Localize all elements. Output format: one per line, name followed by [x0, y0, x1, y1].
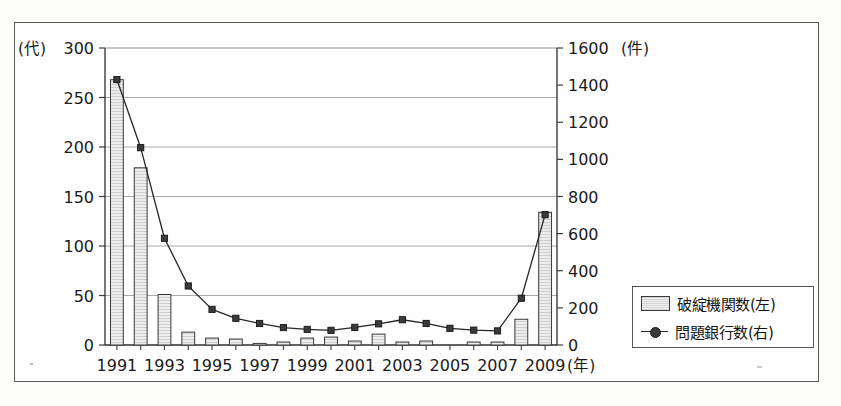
data-marker [542, 212, 548, 218]
bar [396, 342, 409, 345]
legend-label-problem-banks: 問題銀行数(右) [675, 321, 774, 342]
x-tick-label: 1991 [97, 356, 138, 375]
data-marker [494, 328, 500, 334]
data-marker [161, 235, 167, 241]
chart-legend: 破綻機関数(左) 問題銀行数(右) [632, 286, 814, 348]
x-tick-label: 2001 [334, 356, 375, 375]
x-tick-label: 1997 [239, 356, 280, 375]
y-tick-label-right: 1000 [568, 150, 609, 169]
x-tick-label: 1993 [144, 356, 185, 375]
y-tick-label-left: 0 [84, 336, 94, 355]
legend-item-problem-banks: 問題銀行数(右) [641, 319, 807, 344]
data-marker [304, 326, 310, 332]
bar [420, 341, 433, 345]
y-tick-label-left: 300 [63, 39, 94, 58]
y-tick-label-right: 1600 [568, 39, 609, 58]
bar [301, 338, 314, 345]
y-axis-right-unit-label: (件) [621, 40, 649, 58]
bar [134, 168, 147, 345]
y-tick-label-right: 600 [568, 225, 599, 244]
data-marker [375, 321, 381, 327]
data-marker [328, 327, 334, 333]
bar [158, 295, 171, 345]
line-marker-swatch-icon [641, 325, 668, 338]
y-axis-right-ticks: 02004006008001000120014001600 [557, 39, 609, 355]
y-tick-label-left: 200 [63, 138, 94, 157]
y-tick-label-right: 0 [568, 336, 578, 355]
x-tick-label: 2007 [477, 356, 518, 375]
x-tick-label: 1999 [287, 356, 328, 375]
bar [253, 343, 266, 345]
y-tick-label-right: 200 [568, 299, 599, 318]
y-axis-left-unit-label: (代) [18, 40, 46, 58]
bar [182, 332, 195, 345]
data-marker [280, 324, 286, 330]
bar [491, 342, 504, 345]
data-marker [257, 320, 263, 326]
bar [372, 334, 385, 345]
data-line [117, 80, 545, 331]
bar-swatch-icon [641, 296, 670, 311]
bar [277, 342, 290, 345]
y-tick-label-left: 150 [63, 188, 94, 207]
bar [325, 337, 338, 345]
data-marker [447, 325, 453, 331]
data-marker [138, 145, 144, 151]
y-tick-label-right: 800 [568, 188, 599, 207]
y-tick-label-right: 1200 [568, 113, 609, 132]
data-marker [518, 295, 524, 301]
bar [348, 341, 361, 345]
line-series-problem-banks [117, 80, 545, 331]
bar [206, 338, 219, 345]
chart-figure: 050100150200250300 020040060080010001200… [0, 0, 841, 406]
y-tick-label-left: 100 [63, 237, 94, 256]
bar-series-failed-institutions [110, 80, 551, 345]
x-axis-ticks: 1991199319951997199920012003200520072009 [97, 345, 566, 375]
data-marker [209, 306, 215, 312]
y-tick-label-right: 400 [568, 262, 599, 281]
bar [229, 339, 242, 345]
gridlines [105, 48, 557, 296]
y-tick-label-right: 1400 [568, 76, 609, 95]
x-tick-label: 1995 [192, 356, 233, 375]
bar [110, 80, 123, 345]
data-marker [185, 283, 191, 289]
legend-item-failed-institutions: 破綻機関数(左) [641, 291, 807, 316]
data-marker [399, 317, 405, 323]
x-tick-label: 2005 [430, 356, 471, 375]
y-tick-label-left: 50 [74, 287, 94, 306]
x-tick-label: 2009 [525, 356, 566, 375]
x-tick-label: 2003 [382, 356, 423, 375]
data-marker [233, 315, 239, 321]
legend-label-failed-institutions: 破綻機関数(左) [677, 293, 776, 314]
y-axis-left-ticks: 050100150200250300 [63, 39, 105, 355]
y-tick-label-left: 250 [63, 89, 94, 108]
data-marker [114, 76, 120, 82]
data-marker [471, 327, 477, 333]
data-marker [352, 324, 358, 330]
bar [467, 342, 480, 345]
x-axis-unit-label: (年) [567, 357, 595, 375]
data-marker [423, 320, 429, 326]
bar [515, 319, 528, 345]
